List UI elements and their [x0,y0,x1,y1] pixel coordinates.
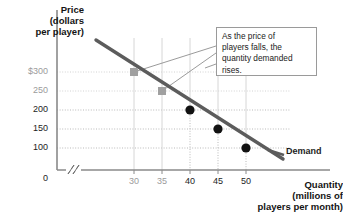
x-tick-label-35: 35 [147,176,177,186]
demand-series-label: Demand [286,146,322,156]
y-tick-label-200: 200 [8,104,48,114]
x-axis-title-line-2: (millions of [292,190,343,201]
data-point-35-250 [158,87,166,95]
x-axis-title-line-3: players per month) [257,201,343,212]
annotation-line-2: players falls, the [222,42,282,52]
annotation-line-3: quantity demanded [222,53,293,63]
x-tick-label-40: 40 [175,176,205,186]
y-axis-title-line-3: per player) [35,26,84,37]
data-point-40-200 [185,105,194,114]
annotation-line-1: As the price of [222,31,275,41]
x-axis-title-line-1: Quantity [304,179,343,190]
y-tick-label-100: 100 [8,142,48,152]
annotation-callout-text: As the price ofplayers falls, thequantit… [222,31,315,76]
y-tick-label-250: 250 [8,85,48,95]
x-axis-break-icon [66,165,81,174]
x-tick-label-45: 45 [203,176,233,186]
x-tick-label-50: 50 [231,176,261,186]
y-tick-label-150: 150 [8,123,48,133]
annotation-callout-box: As the price ofplayers falls, thequantit… [216,27,317,76]
data-point-30-300 [130,68,138,76]
data-point-50-100 [241,143,250,152]
origin-label: 0 [28,173,48,183]
annotation-leader-lines [134,46,216,91]
y-tick-label-300: $300 [8,66,48,76]
y-axis-title-line-2: (dollars [50,15,84,26]
y-axis-title: Price(dollarsper player) [0,4,84,38]
annotation-line-4: rises. [222,65,242,75]
y-axis-title-line-1: Price [61,4,84,15]
data-point-45-150 [213,124,222,133]
x-tick-label-30: 30 [119,176,149,186]
demand-curve-figure: Price(dollarsper player) Quantity(millio… [0,0,343,213]
